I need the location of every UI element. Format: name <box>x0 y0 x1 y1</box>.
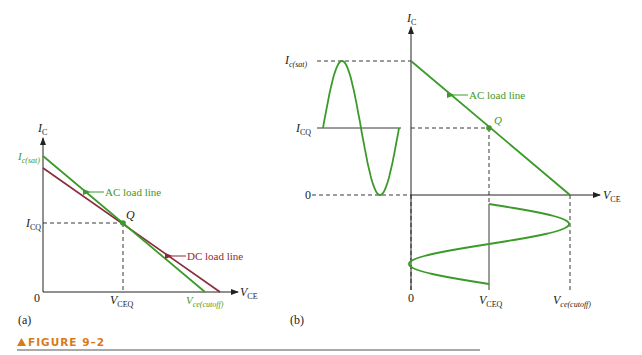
a-vce-cutoff-label: Vce(cutoff) <box>186 294 224 309</box>
a-ac-load-line-label: AC load line <box>105 186 161 198</box>
b-zero-y-label: 0 <box>305 188 311 202</box>
b-vce-cutoff-label: Vce(cutoff) <box>553 293 591 309</box>
b-vceq-label: VCEQ <box>479 293 503 309</box>
a-origin-label: 0 <box>34 291 40 305</box>
a-vceq-label: VCEQ <box>110 293 134 309</box>
a-x-axis-label: VCE <box>240 285 258 301</box>
b-icq-label: ICQ <box>295 121 311 137</box>
figure-caption: FIGURE 9–2 <box>17 336 480 350</box>
b-y-axis-label: IC <box>406 11 416 27</box>
a-q-point <box>120 220 126 226</box>
b-panel-label: (b) <box>290 313 304 327</box>
panel-a: Q AC load line DC load line IC VCE 0 Ic(… <box>17 121 258 327</box>
b-ac-load-line-label: AC load line <box>469 89 525 101</box>
figure-canvas: Q AC load line DC load line IC VCE 0 Ic(… <box>0 0 642 355</box>
a-panel-label: (a) <box>18 313 31 327</box>
b-q-label: Q <box>494 114 502 126</box>
caption-triangle-icon <box>17 338 26 346</box>
a-dc-load-line-label: DC load line <box>187 250 243 262</box>
b-ic-sat-label: Ic(sat) <box>284 53 308 69</box>
panel-b: Q AC load line IC VCE Ic(sat) ICQ 0 0 VC… <box>284 11 621 327</box>
a-q-label: Q <box>126 208 135 222</box>
caption-text: FIGURE 9–2 <box>28 336 105 348</box>
a-icq-label: ICQ <box>25 216 41 232</box>
b-x-axis-label: VCE <box>603 188 621 204</box>
b-zero-x-label: 0 <box>408 291 414 305</box>
a-ic-sat-label: Ic(sat) <box>17 150 40 165</box>
a-y-axis-label: IC <box>37 121 47 137</box>
b-q-point <box>486 125 492 131</box>
